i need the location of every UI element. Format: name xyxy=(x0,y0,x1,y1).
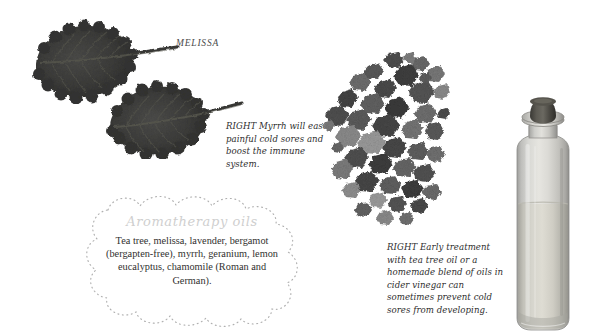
caption-myrrh-lead: RIGHT xyxy=(226,121,256,131)
aromatherapy-content: Aromatherapy oils Tea tree, melissa, lav… xyxy=(100,214,284,287)
caption-tea-tree-text: Early treatment with tea tree oil or a h… xyxy=(387,242,503,315)
caption-tea-tree: RIGHT Early treatment with tea tree oil … xyxy=(387,241,509,317)
myrrh-resin-cluster xyxy=(322,52,450,227)
oil-bottle xyxy=(505,96,581,331)
aromatherapy-title: Aromatherapy oils xyxy=(100,214,284,229)
caption-tea-tree-lead: RIGHT xyxy=(387,242,417,252)
melissa-leaf-lower xyxy=(100,75,245,159)
melissa-label: MELISSA xyxy=(176,38,219,48)
page-canvas: MELISSA RIGHT Myrrh will ease painful co… xyxy=(0,0,600,331)
aromatherapy-body: Tea tree, melissa, lavender, bergamot (b… xyxy=(100,234,284,287)
aromatherapy-panel: Aromatherapy oils Tea tree, melissa, lav… xyxy=(78,192,306,330)
